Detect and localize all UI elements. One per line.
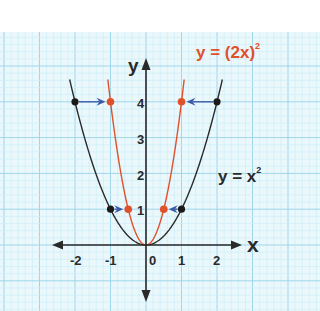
tick-x-2: 2: [213, 253, 220, 268]
tick-x-neg1: -1: [105, 253, 117, 268]
graph-paper-grid: [0, 32, 320, 311]
tick-x-0: 0: [149, 253, 156, 268]
point-2x-squared: [107, 98, 115, 106]
tick-x-neg2: -2: [70, 253, 82, 268]
graph-figure: y x -2 -1 0 1 2 1 2 3 4 y = x2 y = (2x)2: [0, 0, 320, 311]
tick-y-2: 2: [137, 168, 144, 183]
tick-x-1: 1: [178, 253, 185, 268]
tick-y-3: 3: [137, 132, 144, 147]
point-x-squared: [213, 98, 220, 105]
point-2x-squared: [124, 205, 132, 213]
y-axis-label: y: [128, 55, 139, 76]
point-x-squared: [107, 206, 114, 213]
curve-label-2x-squared: y = (2x)2: [196, 41, 260, 62]
point-x-squared: [71, 98, 78, 105]
point-2x-squared: [178, 98, 186, 106]
tick-y-4: 4: [137, 96, 145, 111]
tick-y-1: 1: [137, 203, 144, 218]
x-axis-label: x: [247, 233, 259, 256]
point-x-squared: [178, 206, 185, 213]
curve-label-x-squared: y = x2: [218, 165, 261, 186]
point-2x-squared: [160, 205, 168, 213]
